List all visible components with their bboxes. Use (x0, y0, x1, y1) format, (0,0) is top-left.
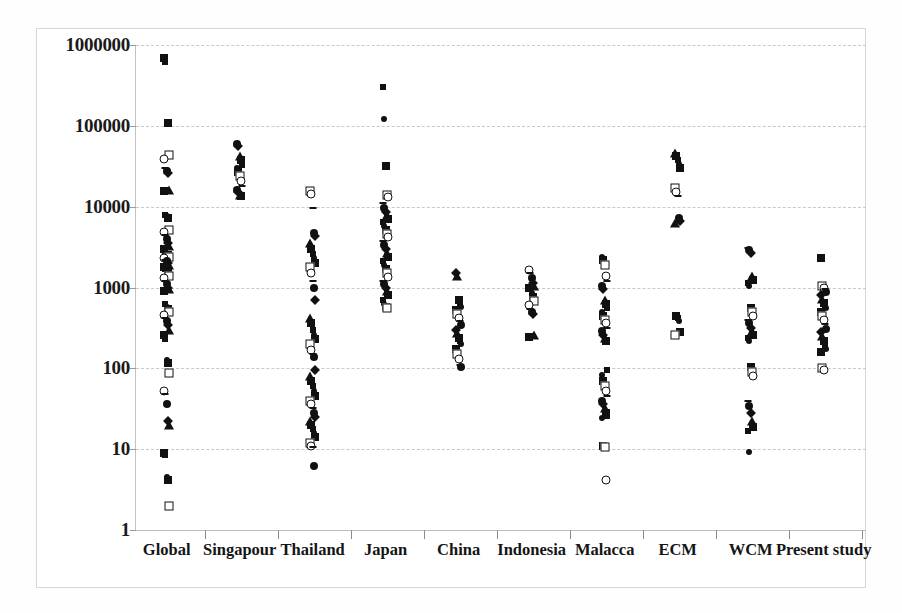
data-point (599, 415, 605, 421)
gridline (136, 449, 866, 450)
data-point (237, 192, 245, 200)
data-point (380, 84, 386, 90)
data-point (165, 501, 174, 510)
data-point (604, 280, 611, 282)
data-point (749, 372, 758, 381)
data-point (163, 168, 173, 178)
x-axis-tick-mark (278, 530, 279, 539)
data-point (307, 269, 316, 278)
x-axis-category-label: Thailand (281, 540, 345, 560)
data-point (162, 336, 168, 342)
data-point (744, 400, 751, 402)
data-point (602, 271, 611, 280)
data-point (602, 337, 610, 345)
data-point (676, 318, 682, 324)
data-point (600, 443, 609, 452)
x-axis-category-label: Global (143, 540, 191, 560)
y-axis-tick-mark (130, 45, 136, 46)
data-point (670, 219, 680, 228)
data-point (528, 309, 538, 319)
y-axis-tick-label: 10000 (84, 196, 130, 218)
data-point (676, 164, 684, 172)
data-point (745, 428, 751, 434)
data-point (307, 189, 316, 198)
data-point (452, 271, 462, 280)
y-axis-tick-label: 1 (121, 519, 130, 541)
x-axis-tick-mark (424, 530, 425, 539)
data-point (162, 452, 168, 458)
data-point (384, 193, 393, 202)
x-axis-tick-mark (716, 530, 717, 539)
data-point (160, 287, 168, 295)
gridline (136, 207, 866, 208)
data-point (602, 476, 611, 485)
data-point (383, 303, 392, 312)
data-point (600, 260, 609, 269)
data-point (159, 154, 168, 163)
x-axis-category-label: ECM (658, 540, 697, 560)
y-axis-tick-label: 10 (112, 438, 130, 460)
plot-area (136, 45, 866, 530)
data-point (162, 59, 168, 65)
x-axis-category-label: Indonesia (497, 540, 566, 560)
data-point (310, 284, 318, 292)
data-point (819, 366, 828, 375)
x-axis-category-label: Japan (364, 540, 407, 560)
x-axis-tick-mark (351, 530, 352, 539)
data-point (670, 330, 679, 339)
data-point (525, 333, 533, 341)
y-axis-tick-mark (130, 207, 136, 208)
data-point (164, 119, 172, 127)
x-axis-tick-mark (570, 530, 571, 539)
data-point (311, 295, 321, 305)
gridline (136, 45, 866, 46)
data-point (160, 187, 168, 195)
y-axis-tick-label: 1000 (93, 277, 130, 299)
x-axis-tick-mark (205, 530, 206, 539)
data-point (604, 305, 610, 311)
x-axis-tick-mark (789, 530, 790, 539)
data-point (310, 462, 318, 470)
data-point (457, 363, 465, 371)
data-point (164, 476, 172, 484)
data-point (598, 284, 608, 294)
x-axis-tick-mark (862, 530, 863, 539)
x-axis-category-label: WCM (729, 540, 773, 560)
y-axis-labels: 1000000100000100001000100101 (36, 45, 130, 530)
data-point (817, 348, 825, 356)
data-point (604, 367, 610, 373)
data-point (233, 141, 243, 151)
data-point (162, 393, 169, 395)
x-axis-category-label: Singapour (203, 540, 276, 560)
data-point (381, 116, 387, 122)
y-axis-tick-mark (130, 449, 136, 450)
chart-figure: 1000000100000100001000100101 GlobalSinga… (0, 0, 902, 613)
data-point (746, 338, 752, 344)
y-axis-tick-label: 100000 (75, 115, 130, 137)
data-point (163, 400, 171, 408)
y-axis-tick-mark (130, 288, 136, 289)
data-point (674, 195, 681, 197)
data-point (382, 162, 390, 170)
x-axis-category-label: China (437, 540, 480, 560)
gridline (136, 288, 866, 289)
data-point (746, 449, 752, 455)
data-point (817, 254, 825, 262)
data-point (165, 368, 174, 377)
x-axis-category-label: Malacca (575, 540, 635, 560)
y-axis-tick-mark (130, 368, 136, 369)
x-axis-category-label: Present study (776, 540, 872, 560)
data-point (309, 280, 316, 282)
y-axis-tick-mark (130, 126, 136, 127)
gridline (136, 126, 866, 127)
data-point (604, 413, 610, 419)
data-point (309, 446, 316, 448)
x-axis-tick-mark (497, 530, 498, 539)
x-axis-tick-mark (643, 530, 644, 539)
x-axis-line (136, 530, 866, 531)
data-point (164, 214, 172, 222)
data-point (310, 353, 318, 361)
data-point (309, 207, 316, 209)
y-axis-tick-label: 1000000 (66, 34, 130, 56)
data-point (237, 176, 246, 185)
